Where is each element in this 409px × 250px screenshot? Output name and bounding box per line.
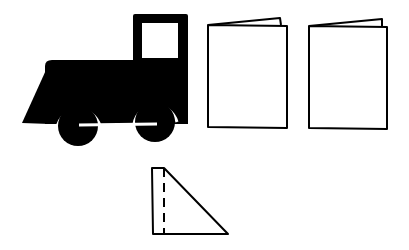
- wheel-right: [135, 102, 175, 142]
- train-engine-icon: [22, 14, 188, 146]
- axle-rod: [79, 124, 157, 125]
- folded-card-icon: [208, 18, 287, 128]
- cab-window: [142, 23, 178, 58]
- illustration-canvas: [0, 0, 409, 250]
- folded-triangle-icon: [152, 168, 228, 234]
- folded-card-icon: [309, 19, 387, 129]
